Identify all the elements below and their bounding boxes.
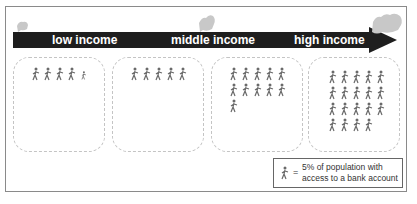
walking-person-icon (327, 86, 338, 100)
figure-grid (327, 70, 389, 132)
money-icon-large (370, 12, 404, 36)
label-low-income: low income (52, 32, 117, 48)
walking-person-icon (276, 83, 287, 97)
walking-person-icon (339, 118, 350, 132)
group-low-income (13, 57, 105, 152)
walking-person-icon (327, 102, 338, 116)
money-icon-medium (196, 12, 218, 34)
walking-person-icon (351, 86, 362, 100)
figure-grid (129, 67, 191, 81)
walking-person-icon (279, 166, 290, 180)
figure-grid (228, 67, 290, 113)
walking-person-icon (339, 70, 350, 84)
walking-person-icon (339, 102, 350, 116)
walking-person-icon (54, 67, 65, 81)
walking-person-icon (339, 86, 350, 100)
group-high-income (308, 57, 400, 152)
walking-person-icon (351, 70, 362, 84)
walking-person-icon (66, 67, 77, 81)
legend-text: 5% of population with access to a bank a… (302, 162, 402, 184)
walking-person-icon (252, 83, 263, 97)
group-upper-middle-income (211, 57, 303, 152)
walking-person-icon (276, 67, 287, 81)
walking-person-icon (240, 83, 251, 97)
walking-person-icon (375, 86, 386, 100)
walking-person-icon (228, 99, 239, 113)
group-lower-middle-income (112, 57, 204, 152)
walking-person-icon (375, 70, 386, 84)
walking-person-icon (363, 70, 374, 84)
walking-person-icon (351, 102, 362, 116)
walking-person-icon (141, 67, 152, 81)
walking-person-icon (264, 67, 275, 81)
walking-person-icon (153, 67, 164, 81)
walking-person-icon (129, 67, 140, 81)
walking-person-icon (363, 102, 374, 116)
walking-person-icon (165, 67, 176, 81)
walking-person-icon (363, 86, 374, 100)
label-high-income: high income (294, 32, 365, 48)
walking-person-icon (264, 83, 275, 97)
walking-person-icon (363, 118, 374, 132)
walking-person-icon (351, 118, 362, 132)
legend-equals: = (293, 167, 298, 177)
label-middle-income: middle income (171, 32, 255, 48)
walking-person-icon (228, 83, 239, 97)
walking-person-icon (252, 67, 263, 81)
figure-grid (30, 67, 92, 81)
walking-person-icon (375, 102, 386, 116)
walking-person-icon (42, 67, 53, 81)
walking-person-icon (177, 67, 188, 81)
money-icon-small (15, 18, 31, 34)
walking-person-icon (30, 67, 41, 81)
walking-person-icon (327, 118, 338, 132)
walking-person-icon (240, 67, 251, 81)
walking-person-icon (228, 67, 239, 81)
legend: = 5% of population with access to a bank… (273, 158, 403, 188)
walking-person-icon (78, 67, 89, 81)
walking-person-icon (327, 70, 338, 84)
